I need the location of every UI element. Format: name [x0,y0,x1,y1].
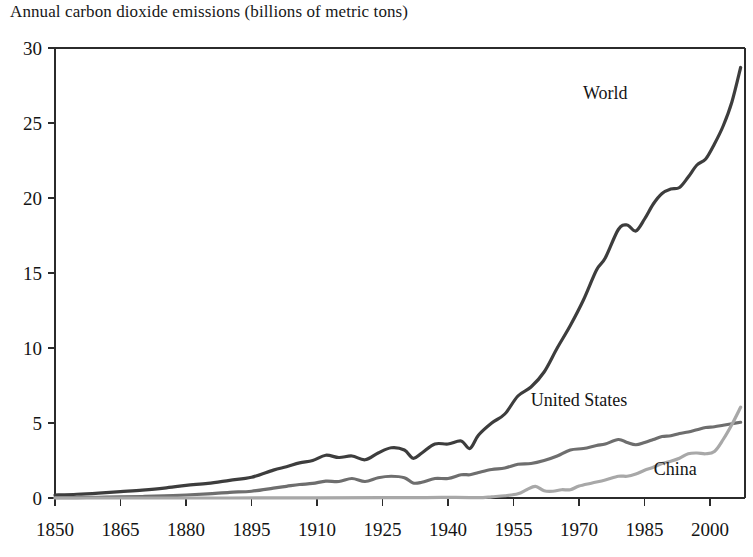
x-tick-label: 1985 [626,519,664,540]
line-chart-plot: 0510152025301850186518801895191019251940… [0,0,753,557]
series-labels: WorldUnited StatesChina [531,83,697,479]
chart-container: Annual carbon dioxide emissions (billion… [0,0,753,557]
y-tick-label: 5 [33,413,43,434]
x-tick-label: 1925 [364,519,402,540]
y-tick-label: 10 [23,338,42,359]
x-tick-label: 1895 [233,519,271,540]
y-tick-label: 30 [23,38,42,59]
series-label-world: World [583,83,628,103]
x-tick-label: 2000 [691,519,729,540]
series-label-united-states: United States [531,390,628,410]
x-tick-label: 1910 [298,519,336,540]
series-line-united-states [55,422,741,497]
chart-series [55,68,741,499]
x-tick-label: 1940 [429,519,467,540]
series-line-china [55,407,741,498]
x-tick-label: 1850 [36,519,74,540]
x-tick-label: 1970 [560,519,598,540]
y-tick-label: 25 [23,113,42,134]
series-label-china: China [654,459,697,479]
y-tick-label: 15 [23,263,42,284]
x-tick-label: 1880 [167,519,205,540]
x-tick-label: 1955 [495,519,533,540]
chart-axes: 0510152025301850186518801895191019251940… [23,38,745,540]
y-tick-label: 20 [23,188,42,209]
x-tick-label: 1865 [102,519,140,540]
y-tick-label: 0 [33,488,43,509]
series-line-world [55,68,741,496]
